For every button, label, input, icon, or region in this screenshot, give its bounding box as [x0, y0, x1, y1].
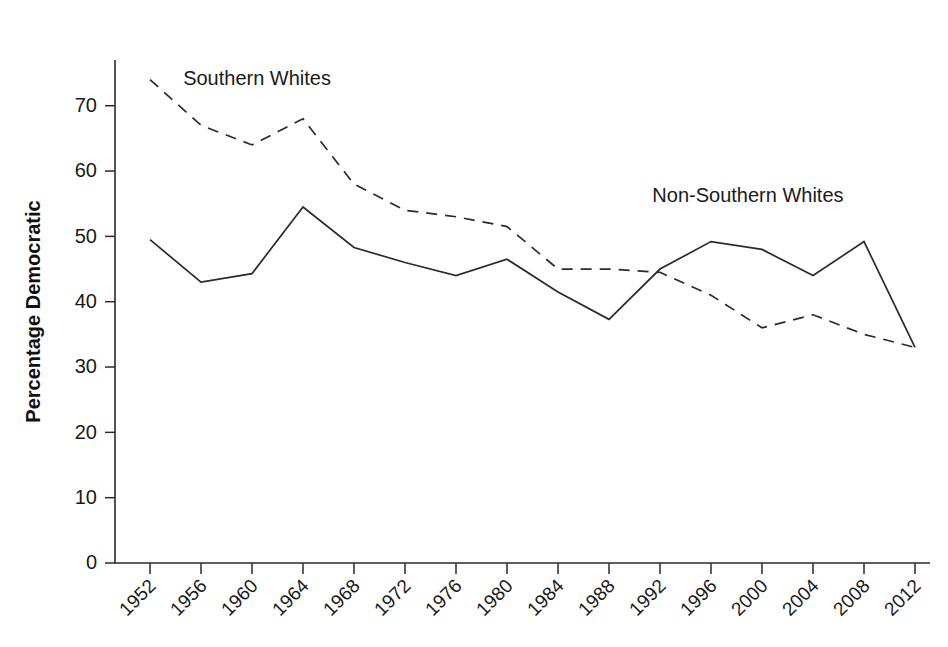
y-tick-label: 40 [75, 290, 97, 312]
series-line-southern-whites [150, 80, 915, 348]
x-tick-label: 1968 [319, 575, 364, 620]
data-series-group [150, 80, 915, 348]
line-chart-canvas: 010203040506070 195219561960196419681972… [0, 0, 948, 647]
x-tick-label: 1996 [676, 575, 721, 620]
y-axis-ticks: 010203040506070 [75, 94, 115, 573]
series-annotations-group: Southern WhitesNon-Southern Whites [183, 67, 843, 207]
y-tick-label: 30 [75, 355, 97, 377]
y-tick-label: 0 [86, 551, 97, 573]
y-tick-label: 10 [75, 486, 97, 508]
axis-lines [115, 60, 930, 563]
x-tick-label: 1952 [115, 575, 160, 620]
x-tick-label: 2008 [829, 575, 874, 620]
x-tick-label: 1988 [574, 575, 619, 620]
y-axis-title: Percentage Democratic [22, 200, 44, 422]
x-tick-label: 1976 [421, 575, 466, 620]
y-tick-label: 50 [75, 225, 97, 247]
x-tick-label: 1972 [370, 575, 415, 620]
x-tick-label: 1980 [472, 575, 517, 620]
x-axis-ticks: 1952195619601964196819721976198019841988… [115, 563, 925, 620]
x-tick-label: 2004 [778, 575, 823, 620]
series-line-non-southern-whites [150, 207, 915, 347]
x-tick-label: 2012 [880, 575, 925, 620]
axes-group [115, 60, 930, 563]
x-tick-label: 1964 [268, 575, 313, 620]
y-tick-label: 70 [75, 94, 97, 116]
x-tick-label: 1984 [523, 575, 568, 620]
x-tick-label: 1992 [625, 575, 670, 620]
x-tick-label: 1956 [166, 575, 211, 620]
y-tick-label: 20 [75, 421, 97, 443]
x-tick-label: 2000 [727, 575, 772, 620]
y-tick-label: 60 [75, 159, 97, 181]
x-tick-label: 1960 [217, 575, 262, 620]
series-label-southern-whites: Southern Whites [183, 67, 331, 89]
series-label-non-southern-whites: Non-Southern Whites [652, 184, 843, 206]
chart-figure: 010203040506070 195219561960196419681972… [0, 0, 948, 647]
